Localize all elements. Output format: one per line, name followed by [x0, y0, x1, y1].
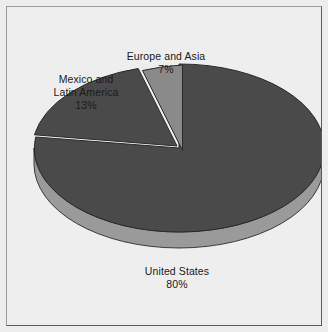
- chart-plot-area: Europe and Asia 7% Mexico and Latin Amer…: [7, 7, 321, 325]
- slice-label-europe-asia-name: Europe and Asia: [111, 50, 221, 63]
- slice-label-united-states-value: 80%: [120, 278, 234, 291]
- slice-label-mexico-latin-america-name-line2: Latin America: [34, 86, 138, 99]
- slice-label-mexico-latin-america: Mexico and Latin America 13%: [34, 73, 138, 112]
- slice-label-mexico-latin-america-name-line1: Mexico and: [34, 73, 138, 86]
- pie-chart-figure: Europe and Asia 7% Mexico and Latin Amer…: [0, 0, 328, 332]
- slice-label-united-states: United States 80%: [120, 265, 234, 291]
- slice-label-mexico-latin-america-value: 13%: [34, 99, 138, 112]
- slice-label-united-states-name: United States: [120, 265, 234, 278]
